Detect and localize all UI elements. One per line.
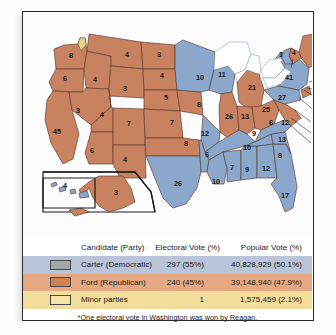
electoral-vote: 240 (45%) — [167, 278, 204, 287]
election-map-card: .F{fill:#c8825f;stroke:#5a3c30;stroke-wi… — [22, 11, 314, 321]
state-vote-iowa: 8 — [197, 100, 201, 109]
state-vote-washington: 8 — [69, 51, 73, 60]
state-vote-mississippi: 7 — [230, 163, 234, 172]
state-vote-arkansas: 6 — [205, 150, 209, 159]
state-vote-south-dakota: 4 — [160, 71, 164, 80]
header-candidate: Candidate (Party) — [81, 243, 144, 252]
state-vote-michigan: 21 — [248, 83, 256, 92]
popular-vote: 1,575,459 (2.1%) — [240, 295, 302, 304]
state-vote-missouri: 12 — [201, 129, 209, 138]
table-row: Minor parties 1 1,575,459 (2.1%) — [23, 291, 312, 309]
state-vote-texas: 26 — [174, 179, 182, 188]
state-vote-wisconsin: 11 — [218, 70, 226, 79]
callout-vote-new-hampshire: 4 — [292, 49, 296, 56]
state-vote-nebraska: 5 — [164, 93, 168, 102]
state-vote-florida: 17 — [281, 191, 289, 200]
state-vote-colorado: 7 — [127, 119, 131, 128]
state-vote-wyoming: 3 — [123, 84, 127, 93]
state-vote-arizona: 6 — [90, 146, 94, 155]
legend-table: Candidate (Party) Electoral Vote (%) Pop… — [23, 238, 312, 320]
carter-swatch — [50, 260, 71, 270]
popular-vote: 40,828,929 (50.1%) — [231, 260, 302, 269]
state-vote-kentucky: 9 — [252, 129, 256, 138]
state-vote-indiana: 13 — [241, 112, 249, 121]
state-vote-oklahoma: 8 — [184, 139, 188, 148]
footnote: *One electoral vote in Washington was wo… — [23, 309, 312, 327]
electoral-vote: 297 (55%) — [167, 260, 204, 269]
table-row: Carter (Democratic) 297 (55%) 40,828,929… — [23, 256, 312, 274]
state-vote-utah: 4 — [100, 110, 104, 119]
state-vote-georgia: 12 — [262, 164, 270, 173]
candidate-name: Carter (Democratic) — [81, 260, 152, 269]
legend-header-row: Candidate (Party) Electoral Vote (%) Pop… — [23, 238, 312, 256]
state-vote-oregon: 6 — [63, 74, 67, 83]
state-vote-louisiana: 10 — [212, 177, 220, 186]
state-vote-minnesota: 10 — [196, 73, 204, 82]
state-vote-west-virginia: 6 — [269, 118, 273, 127]
state-vote-ohio: 25 — [262, 105, 270, 114]
electoral-map: .F{fill:#c8825f;stroke:#5a3c30;stroke-wi… — [23, 12, 312, 237]
state-vote-alaska: 3 — [114, 188, 118, 197]
state-vote-south-carolina: 8 — [278, 151, 282, 160]
screenshot-root: .F{fill:#c8825f;stroke:#5a3c30;stroke-wi… — [0, 0, 336, 335]
state-vote-hawaii: 4 — [63, 181, 67, 190]
state-vote-virginia: 12 — [281, 118, 289, 127]
state-vote-alabama: 9 — [245, 165, 249, 174]
header-popular: Popular Vote (%) — [241, 243, 302, 252]
state-vote-idaho: 4 — [93, 75, 97, 84]
electoral-vote: 1 — [199, 295, 204, 304]
state-vote-montana: 4 — [125, 50, 129, 59]
state-vote-pennsylvania: 27 — [278, 93, 286, 102]
state-vote-new-mexico: 4 — [123, 155, 127, 164]
state-vote-tennessee: 10 — [243, 143, 251, 152]
popular-vote: 39,148,940 (47.9%) — [231, 278, 302, 287]
state-vote-kansas: 7 — [170, 118, 174, 127]
state-vote-california: 45 — [53, 127, 61, 136]
candidate-name: Minor parties — [81, 295, 128, 304]
state-vote-north-dakota: 3 — [157, 50, 161, 59]
header-electoral: Electoral Vote (%) — [155, 243, 220, 252]
state-vote-new-york: 41 — [285, 73, 293, 82]
table-row: Ford (Republican) 240 (45%) 39,148,940 (… — [23, 274, 312, 292]
state-vote-nevada: 3 — [76, 106, 80, 115]
callout-vote-vermont: 3 — [279, 51, 283, 58]
candidate-name: Ford (Republican) — [81, 278, 146, 287]
ford-swatch — [50, 277, 71, 287]
state-vote-illinois: 26 — [225, 112, 233, 121]
minor-swatch — [50, 295, 71, 305]
state-vote-north-carolina: 13 — [278, 135, 286, 144]
